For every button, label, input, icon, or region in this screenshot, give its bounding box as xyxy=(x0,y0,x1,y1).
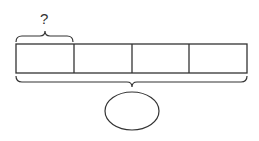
bottom-brace xyxy=(16,76,247,87)
tape-diagram xyxy=(0,0,259,141)
unknown-label: ? xyxy=(40,10,48,27)
answer-oval xyxy=(105,92,159,130)
top-brace xyxy=(16,31,73,42)
